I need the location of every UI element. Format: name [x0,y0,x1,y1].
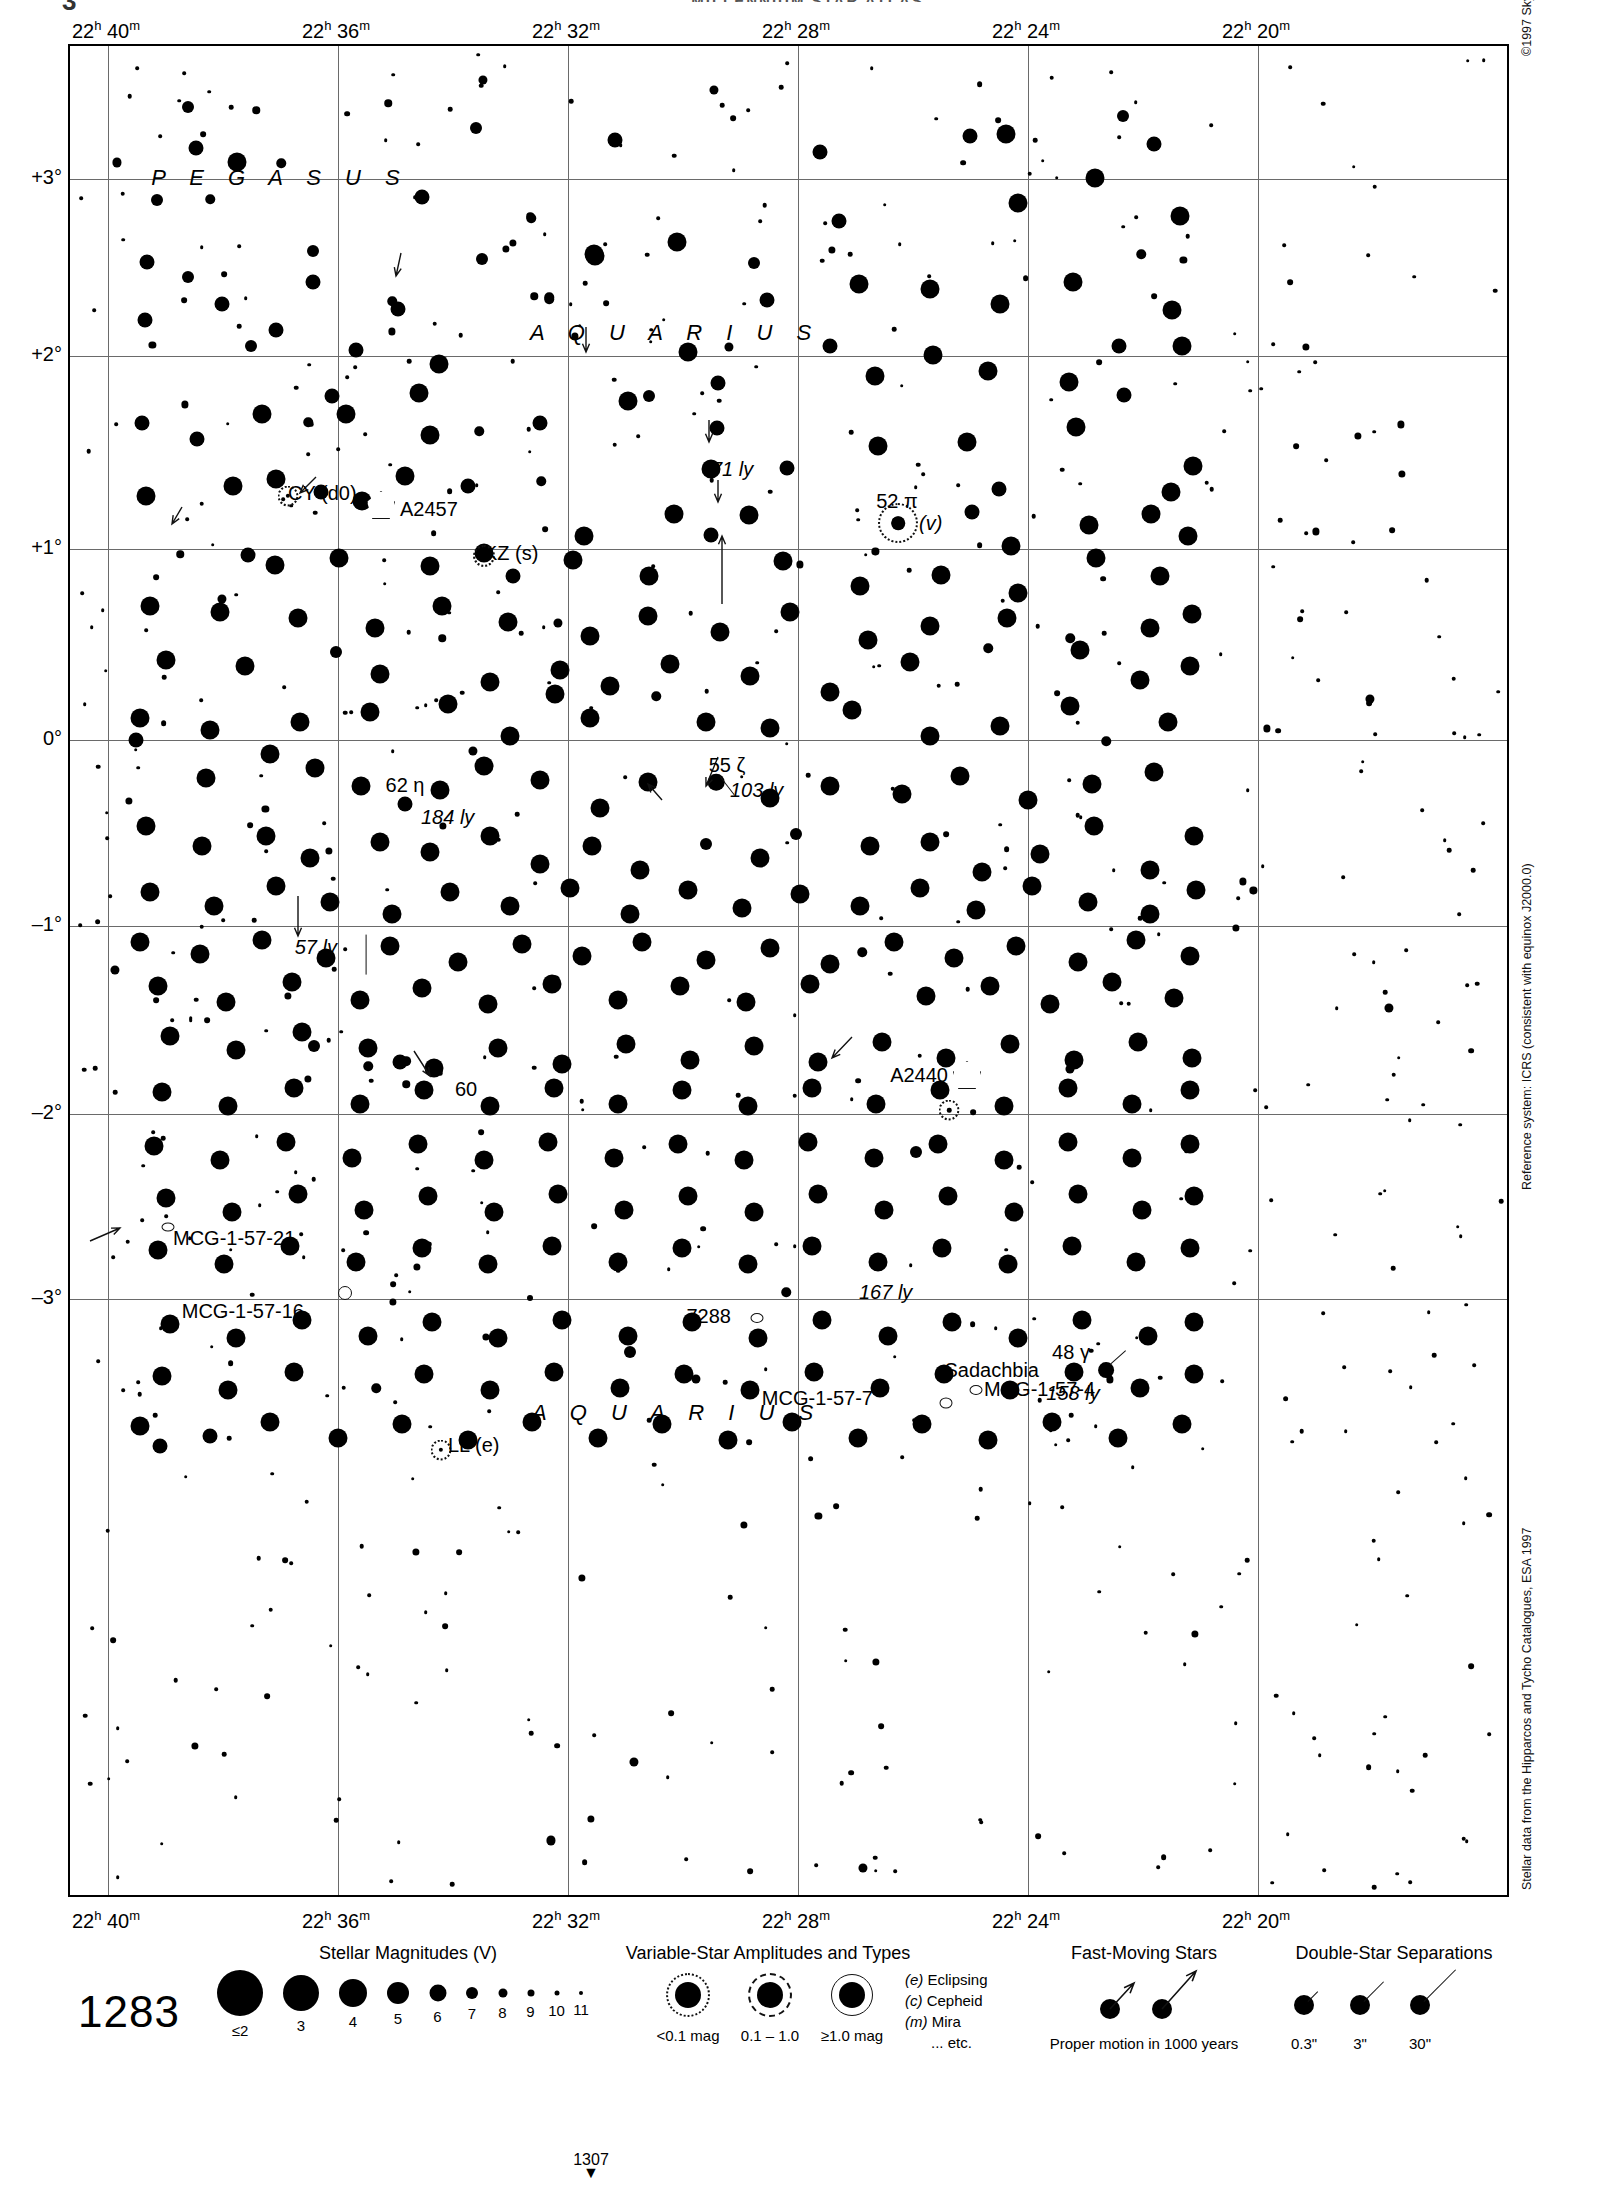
star-point [361,703,380,722]
star-point [1355,1623,1359,1627]
star-point [107,1777,111,1781]
star-point [1437,1021,1441,1025]
star-point [1151,567,1170,586]
star-point [1061,1506,1065,1510]
variable-type-row-2: (m) Mira [905,2013,988,2030]
star-point [893,1870,897,1874]
star-point [1080,516,1099,535]
star-point [1377,1557,1381,1561]
star-point [1451,676,1456,681]
star-point [1352,952,1356,956]
star-point [781,603,800,622]
star-point [839,1781,844,1786]
star-point [998,609,1017,628]
star-point [322,822,326,826]
star-point [389,463,393,467]
star-point [182,271,194,283]
variable-type-row-0: (e) Eclipsing [905,1971,988,1988]
star-point [144,629,148,633]
page-corner-mark: 3 [62,0,76,17]
star-point [764,1626,768,1630]
star-point [199,699,203,703]
star-point [1005,1203,1024,1222]
star-point [924,346,943,365]
proper-motion-arrow-11 [402,1039,442,1088]
star-point [1383,990,1388,995]
star-point [740,1521,747,1528]
star-point [359,494,363,498]
star-point [510,359,515,364]
star-point [1321,1312,1325,1316]
star-point [965,505,980,520]
object-label-mcg-1-57-16: MCG-1-57-16 [182,1300,304,1323]
star-point [432,321,437,326]
star-point [256,1556,261,1561]
star-point [963,129,978,144]
star-point [211,603,230,622]
star-point [106,1528,111,1533]
star-point [583,837,602,856]
star-point [417,142,421,146]
star-point [1392,1072,1397,1077]
star-point [267,877,286,896]
star-point [136,1381,140,1385]
star-point [685,1857,689,1861]
star-point [448,107,453,112]
star-point [1464,1303,1468,1307]
star-point [1427,1311,1431,1315]
star-point [1248,389,1252,393]
star-point [940,1372,944,1376]
star-point [470,122,482,134]
star-point [1079,893,1098,912]
star-point [1272,565,1276,569]
star-point [1236,896,1240,900]
magnitude-sample-7 [466,1987,478,1999]
double-star-separation-line-2 [1424,1969,1457,2002]
star-point [501,897,520,916]
star-point [692,1375,701,1384]
star-point [326,1038,331,1043]
star-point [1041,159,1045,163]
star-point [479,1255,498,1274]
star-point [879,1327,898,1346]
star-point [705,689,710,694]
star-point [1274,1694,1279,1699]
star-point [939,1187,958,1206]
star-point [871,1379,890,1398]
star-point [149,342,156,349]
double-star-separation-line-1 [1364,1981,1385,2002]
star-point [135,416,150,431]
star-point [164,1214,168,1218]
object-label-62-eta: 62 η [386,774,425,797]
object-label-kz: KZ (s) [484,542,538,565]
star-point [275,1190,279,1194]
bright-star-52-pi [891,516,905,530]
star-point [153,1367,172,1386]
variables-legend-title: Variable-Star Amplitudes and Types [626,1943,911,1964]
galaxy-mcg-1-57-4 [970,1385,983,1395]
star-point [326,1394,330,1398]
star-point [536,476,546,486]
star-point [459,333,464,338]
star-point [785,742,789,746]
star-point [932,566,951,585]
star-point [639,607,658,626]
star-point [761,939,780,958]
object-label-55-zeta: 55 ζ [709,754,746,777]
star-point [859,631,878,650]
star-point [384,99,392,107]
star-point [1468,1663,1474,1669]
star-point [1343,1366,1347,1370]
star-point [843,1627,848,1632]
star-point [264,1693,270,1699]
star-point [706,1151,711,1156]
star-point [234,593,238,597]
star-point [413,195,417,199]
star-point [1264,1105,1268,1109]
next-chart-pointer[interactable]: 1307 ▼ [573,2151,609,2178]
star-point [542,526,548,532]
star-chart-map[interactable]: P E G A S U SA Q U A R I U SA Q U A R I … [68,44,1509,1897]
star-point [532,1065,537,1070]
star-point [612,377,617,382]
star-point [421,557,440,576]
